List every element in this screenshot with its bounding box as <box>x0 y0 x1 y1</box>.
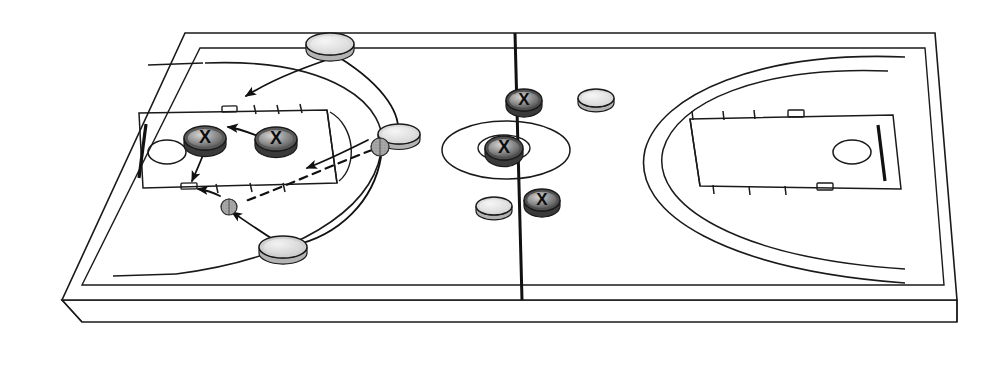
defender-magnet-below-circle[interactable]: X <box>524 189 560 217</box>
defender-label: X <box>536 190 548 209</box>
defender-magnet-left-elbow[interactable]: X <box>184 126 226 157</box>
defender-label: X <box>498 137 510 157</box>
defender-label: X <box>518 90 530 109</box>
defender-magnet-above-circle[interactable]: X <box>506 89 542 117</box>
offense-magnet-below-circle[interactable] <box>476 197 512 220</box>
defender-label: X <box>270 128 282 148</box>
court-svg: XXXXX <box>0 0 1004 371</box>
defender-magnet-center-circle[interactable]: X <box>485 136 523 167</box>
play-diagram-canvas: XXXXX Basketball Half-Court Play Diagram… <box>0 0 1004 371</box>
offense-magnet-right-of-circle[interactable] <box>578 89 614 112</box>
basketball-at-baseline[interactable] <box>221 199 237 215</box>
offense-magnet-top-left[interactable] <box>306 33 354 61</box>
defender-label: X <box>199 127 211 147</box>
defender-magnet-lane[interactable]: X <box>255 127 297 158</box>
basketball-at-wing[interactable] <box>371 138 389 156</box>
offense-magnet-bottom-left[interactable] <box>259 236 307 264</box>
